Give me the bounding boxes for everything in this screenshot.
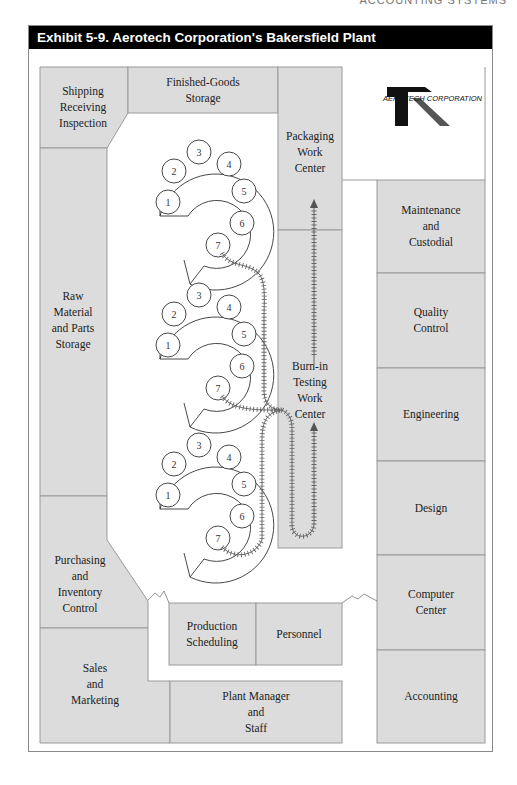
room-accounting: Accounting <box>377 650 485 743</box>
room-engineering: Engineering <box>377 368 485 461</box>
svg-text:Personnel: Personnel <box>276 628 321 640</box>
room-purchasing: Purchasing and Inventory Control <box>40 496 148 628</box>
svg-text:Purchasing: Purchasing <box>54 554 105 567</box>
svg-text:Quality: Quality <box>414 306 449 319</box>
svg-text:Work: Work <box>297 146 323 158</box>
svg-text:Finished-Goods: Finished-Goods <box>166 76 240 88</box>
room-production-scheduling: Production Scheduling <box>169 603 256 665</box>
svg-text:Storage: Storage <box>55 338 90 351</box>
svg-text:2: 2 <box>172 459 177 470</box>
station-1: 1 <box>156 483 180 507</box>
svg-text:Center: Center <box>295 162 326 174</box>
assembly-line-2: 1 2 3 4 5 6 7 <box>156 283 274 433</box>
station-7: 7 <box>206 233 230 257</box>
svg-text:Inspection: Inspection <box>59 117 107 130</box>
svg-text:Center: Center <box>416 604 447 616</box>
svg-text:2: 2 <box>172 309 177 320</box>
wall-break-left <box>148 591 169 603</box>
station-5: 5 <box>232 322 256 346</box>
svg-text:Scheduling: Scheduling <box>186 636 238 649</box>
svg-text:and: and <box>87 678 104 690</box>
svg-text:Design: Design <box>415 502 448 515</box>
svg-text:4: 4 <box>227 302 232 313</box>
station-5: 5 <box>232 179 256 203</box>
svg-text:Computer: Computer <box>408 588 454 601</box>
room-design: Design <box>377 461 485 555</box>
room-plant-manager: Plant Manager and Staff <box>170 681 342 743</box>
svg-text:3: 3 <box>197 440 202 451</box>
station-1: 1 <box>156 190 180 214</box>
room-packaging: Packaging Work Center <box>278 67 342 230</box>
station-2: 2 <box>162 159 186 183</box>
svg-text:Marketing: Marketing <box>71 694 119 707</box>
station-2: 2 <box>162 302 186 326</box>
svg-text:1: 1 <box>166 490 171 501</box>
station-5: 5 <box>232 472 256 496</box>
station-4: 4 <box>217 295 241 319</box>
svg-text:7: 7 <box>216 383 221 394</box>
station-7: 7 <box>206 526 230 550</box>
svg-text:Testing: Testing <box>293 376 327 389</box>
svg-text:2: 2 <box>172 166 177 177</box>
station-2: 2 <box>162 452 186 476</box>
svg-text:Storage: Storage <box>185 92 220 105</box>
station-1: 1 <box>156 333 180 357</box>
station-3: 3 <box>187 283 211 307</box>
svg-text:Control: Control <box>413 322 448 334</box>
svg-text:and: and <box>423 220 440 232</box>
svg-text:Material: Material <box>54 306 93 318</box>
assembly-line-1: 1 2 3 4 5 6 7 <box>156 140 274 290</box>
room-maintenance: Maintenance and Custodial <box>377 180 485 273</box>
svg-text:1: 1 <box>166 340 171 351</box>
room-burn-in: Burn-in Testing Work Center <box>278 230 342 548</box>
station-6: 6 <box>230 504 254 528</box>
svg-text:Burn-in: Burn-in <box>292 360 328 372</box>
svg-text:4: 4 <box>227 452 232 463</box>
svg-text:5: 5 <box>242 479 247 490</box>
svg-text:Work: Work <box>297 392 323 404</box>
svg-text:6: 6 <box>240 218 245 229</box>
svg-text:Plant Manager: Plant Manager <box>222 690 290 703</box>
svg-text:Staff: Staff <box>245 722 267 734</box>
room-sales: Sales and Marketing <box>40 628 170 743</box>
station-6: 6 <box>230 211 254 235</box>
svg-text:Sales: Sales <box>83 662 108 674</box>
svg-text:1: 1 <box>166 197 171 208</box>
station-3: 3 <box>187 140 211 164</box>
station-7: 7 <box>206 376 230 400</box>
svg-text:Shipping: Shipping <box>62 85 104 98</box>
svg-text:5: 5 <box>242 186 247 197</box>
svg-text:Control: Control <box>62 602 97 614</box>
room-shipping: Shipping Receiving Inspection <box>40 67 128 148</box>
svg-text:Engineering: Engineering <box>403 408 459 421</box>
svg-text:6: 6 <box>240 361 245 372</box>
floor-plan: Shipping Receiving Inspection Finished-G… <box>0 0 517 785</box>
svg-text:6: 6 <box>240 511 245 522</box>
svg-text:Maintenance: Maintenance <box>401 204 460 216</box>
svg-text:Receiving: Receiving <box>60 101 107 114</box>
svg-text:Inventory: Inventory <box>58 586 103 599</box>
svg-text:3: 3 <box>197 147 202 158</box>
room-finished-goods: Finished-Goods Storage <box>128 67 278 113</box>
svg-text:and: and <box>72 570 89 582</box>
room-personnel: Personnel <box>256 603 342 665</box>
aerotech-logo: AEROTECH CORPORATION <box>382 87 483 126</box>
svg-text:7: 7 <box>216 533 221 544</box>
station-4: 4 <box>217 445 241 469</box>
svg-text:Center: Center <box>295 408 326 420</box>
station-4: 4 <box>217 152 241 176</box>
svg-text:Production: Production <box>187 620 238 632</box>
svg-text:5: 5 <box>242 329 247 340</box>
room-quality-control: Quality Control <box>377 273 485 368</box>
station-3: 3 <box>187 433 211 457</box>
svg-text:4: 4 <box>227 159 232 170</box>
svg-text:and: and <box>248 706 265 718</box>
svg-text:Packaging: Packaging <box>286 130 334 143</box>
svg-text:AEROTECH CORPORATION: AEROTECH CORPORATION <box>382 94 483 103</box>
room-computer-center: Computer Center <box>377 555 485 650</box>
svg-text:and Parts: and Parts <box>52 322 95 334</box>
svg-text:Accounting: Accounting <box>404 690 458 703</box>
svg-text:3: 3 <box>197 290 202 301</box>
assembly-line-3: 1 2 3 4 5 6 7 <box>156 433 274 583</box>
wall-break-right <box>342 594 377 603</box>
